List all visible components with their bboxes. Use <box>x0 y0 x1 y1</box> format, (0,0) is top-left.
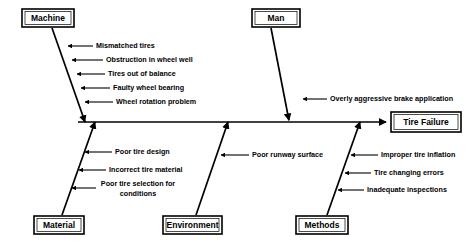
cause-label: Incorrect tire material <box>109 165 183 174</box>
category-man: Man Overly aggressive brake application <box>252 9 453 120</box>
cause-label: Obstruction in wheel well <box>106 55 193 64</box>
category-machine: Machine Mismatched tires Obstruction in … <box>22 9 196 122</box>
cause-label: Tire changing errors <box>374 168 444 177</box>
cause-label: Mismatched tires <box>96 41 155 50</box>
cause-label: Poor runway surface <box>252 150 323 159</box>
rib-methods <box>327 122 360 215</box>
fishbone-canvas: Tire Failure Machine Mismatched tires Ob… <box>0 0 473 244</box>
category-label-machine: Machine <box>31 13 65 23</box>
category-label-methods: Methods <box>305 220 340 230</box>
cause-label: Faulty wheel bearing <box>113 83 184 92</box>
category-methods: Methods Improper tire inflation Tire cha… <box>296 122 455 234</box>
category-label-environment: Environment <box>167 220 219 230</box>
effect-label: Tire Failure <box>403 117 449 127</box>
rib-environment <box>196 122 228 215</box>
cause-label: Poor tire selection for <box>101 179 175 188</box>
cause-label: Overly aggressive brake application <box>330 94 453 103</box>
cause-label: Poor tire design <box>115 147 170 156</box>
category-material: Material Poor tire design Incorrect tire… <box>34 122 183 234</box>
cause-label: Wheel rotation problem <box>116 97 196 106</box>
rib-machine <box>52 28 85 122</box>
cause-label: Improper tire inflation <box>381 150 455 159</box>
cause-label: Tires out of balance <box>108 69 176 78</box>
cause-label: Inadequate inspections <box>367 185 447 194</box>
category-label-man: Man <box>268 13 285 23</box>
category-label-material: Material <box>43 220 75 230</box>
rib-man <box>271 28 289 120</box>
fishbone-diagram: Tire Failure Machine Mismatched tires Ob… <box>0 0 473 244</box>
effect-box: Tire Failure <box>391 112 461 132</box>
cause-label-line2: conditions <box>120 189 156 198</box>
rib-material <box>62 122 95 215</box>
